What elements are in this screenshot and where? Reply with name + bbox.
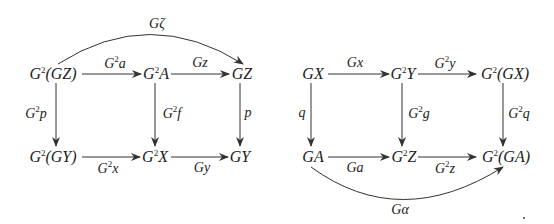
stray-dot: [523, 217, 525, 219]
label-Gy: Gy: [194, 161, 210, 175]
object-GY: GY: [230, 149, 250, 165]
label-G2y: G2y: [435, 55, 456, 71]
label-Gx: Gx: [347, 56, 363, 70]
label-G2p: G2p: [25, 105, 47, 121]
label-Gzeta: Gζ: [149, 17, 165, 31]
object-G2GA: G2(GA): [482, 149, 530, 165]
diagram-arrows: [0, 0, 554, 224]
object-G2X: G2X: [142, 149, 168, 165]
arrow-curved-alpha: [311, 167, 503, 200]
arrow-curved-zeta: [58, 35, 243, 65]
object-G2A: G2A: [143, 66, 169, 82]
object-G2GY: G2(GY): [29, 149, 76, 165]
label-G2x: G2x: [98, 160, 119, 176]
label-G2a: G2a: [104, 55, 126, 71]
label-Galpha: Gα: [391, 203, 408, 217]
label-G2f: G2f: [163, 105, 182, 121]
label-G2g: G2g: [408, 105, 430, 121]
object-G2GZ: G2(GZ): [29, 66, 76, 82]
object-GX: GX: [302, 66, 323, 82]
object-GZ: GZ: [232, 66, 252, 82]
object-G2Z: G2Z: [392, 149, 417, 165]
object-GA: GA: [302, 149, 323, 165]
label-Ga: Ga: [346, 161, 363, 175]
label-G2q: G2q: [508, 105, 530, 121]
label-G2z: G2z: [435, 160, 455, 176]
object-G2Y: G2Y: [391, 66, 416, 82]
label-Gz: Gz: [192, 56, 208, 70]
label-q: q: [299, 106, 306, 120]
object-G2GX: G2(GX): [481, 66, 529, 82]
label-p: p: [245, 106, 252, 120]
